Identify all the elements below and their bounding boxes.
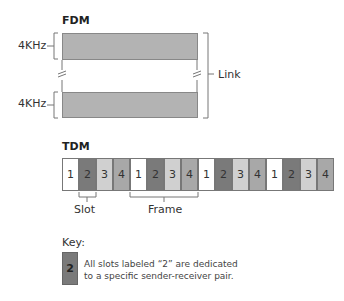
tdm-slot-4: 4 <box>249 158 266 191</box>
tdm-slot-2: 2 <box>283 158 300 191</box>
key-description: All slots labeled “2” are dedicated to a… <box>84 258 238 282</box>
key-line-2: to a specific sender-receiver pair. <box>84 270 238 282</box>
tdm-slot-3: 3 <box>232 158 249 191</box>
tdm-slot-3: 3 <box>164 158 181 191</box>
tdm-slot-label: 4 <box>254 168 261 181</box>
tdm-slot-label: 4 <box>186 168 193 181</box>
diagram-lines <box>0 0 344 301</box>
tdm-slot-4: 4 <box>317 158 334 191</box>
tdm-slot-2: 2 <box>79 158 96 191</box>
key-swatch: 2 <box>62 252 78 285</box>
tdm-slot-label: 4 <box>118 168 125 181</box>
tdm-slot-2: 2 <box>215 158 232 191</box>
slot-label: Slot <box>74 203 95 216</box>
tdm-slot-label: 4 <box>322 168 329 181</box>
tdm-slot-label: 3 <box>169 168 176 181</box>
tdm-slot-label: 3 <box>305 168 312 181</box>
frame-label: Frame <box>148 203 182 216</box>
tdm-slot-3: 3 <box>300 158 317 191</box>
tdm-slot-label: 3 <box>101 168 108 181</box>
tdm-slot-label: 3 <box>237 168 244 181</box>
key-swatch-label: 2 <box>66 262 74 275</box>
key-title: Key: <box>62 236 85 249</box>
tdm-slot-4: 4 <box>113 158 130 191</box>
tdm-slot-label: 2 <box>84 168 91 181</box>
tdm-slot-1: 1 <box>130 158 147 191</box>
tdm-slot-1: 1 <box>266 158 283 191</box>
tdm-title: TDM <box>62 140 90 153</box>
tdm-slot-label: 1 <box>203 168 210 181</box>
tdm-slot-3: 3 <box>96 158 113 191</box>
tdm-slot-label: 1 <box>135 168 142 181</box>
tdm-slot-label: 1 <box>271 168 278 181</box>
tdm-slot-label: 2 <box>220 168 227 181</box>
tdm-slot-2: 2 <box>147 158 164 191</box>
tdm-slot-1: 1 <box>62 158 79 191</box>
tdm-slot-label: 2 <box>288 168 295 181</box>
tdm-slot-label: 2 <box>152 168 159 181</box>
tdm-slot-4: 4 <box>181 158 198 191</box>
tdm-slot-label: 1 <box>67 168 74 181</box>
key-line-1: All slots labeled “2” are dedicated <box>84 258 238 270</box>
tdm-slot-1: 1 <box>198 158 215 191</box>
